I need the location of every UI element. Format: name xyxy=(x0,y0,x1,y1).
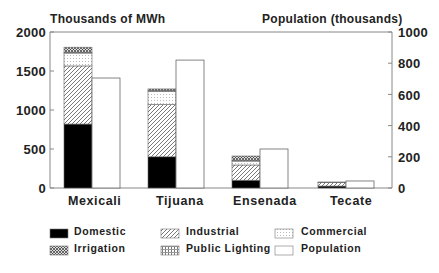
bar-group-tijuana xyxy=(148,60,204,188)
legend-label-population: Population xyxy=(301,242,361,254)
bar-segment-industrial xyxy=(64,66,92,124)
left-tick-label: 1500 xyxy=(16,64,46,79)
bar-segment-domestic xyxy=(148,157,176,188)
bar-segment-industrial xyxy=(318,183,346,187)
bar-population xyxy=(346,181,374,188)
right-axis-title: Population (thousands) xyxy=(262,12,403,26)
bar-segment-industrial xyxy=(148,105,176,157)
bar-population xyxy=(92,78,120,188)
bar-segment-domestic xyxy=(232,180,260,188)
legend-swatch-domestic xyxy=(50,229,68,238)
bar-segment-commercial xyxy=(64,53,92,66)
left-tick-label: 500 xyxy=(23,142,46,157)
right-tick-label: 400 xyxy=(398,119,421,134)
legend-label-irrigation: Irrigation xyxy=(74,242,126,254)
left-axis-title: Thousands of MWh xyxy=(50,12,165,26)
bar-segment-industrial xyxy=(232,165,260,180)
legend-swatch-industrial xyxy=(161,229,179,238)
bar-group-ensenada xyxy=(232,149,288,188)
right-tick-label: 1000 xyxy=(398,25,428,40)
bar-segment-irrigation xyxy=(64,47,92,52)
bar-segment-irrigation xyxy=(232,156,260,160)
bar-population xyxy=(260,149,288,188)
bar-group-tecate xyxy=(318,181,374,188)
legend-swatch-public-lighting xyxy=(161,246,179,255)
bar-segment-domestic xyxy=(64,124,92,188)
legend-label-public-lighting: Public Lighting xyxy=(186,242,271,254)
legend-swatch-commercial xyxy=(275,229,293,238)
bar-population xyxy=(176,60,204,188)
category-label-tecate: Tecate xyxy=(330,194,372,208)
bar-segment-irrigation xyxy=(148,89,176,91)
legend-swatch-population xyxy=(275,246,293,255)
plot-area xyxy=(50,32,392,188)
right-tick-label: 600 xyxy=(398,88,421,103)
bar-segment-commercial xyxy=(232,161,260,165)
bar-segment-commercial xyxy=(148,91,176,104)
legend-swatch-irrigation xyxy=(50,246,68,255)
left-tick-label: 1000 xyxy=(16,103,46,118)
category-label-mexicali: Mexicali xyxy=(68,194,121,208)
bar-group-mexicali xyxy=(64,47,120,188)
legend-label-domestic: Domestic xyxy=(74,225,126,237)
right-tick-label: 0 xyxy=(398,181,406,196)
right-tick-label: 800 xyxy=(398,56,421,71)
right-tick-label: 200 xyxy=(398,150,421,165)
legend-label-industrial: Industrial xyxy=(186,225,239,237)
category-label-tijuana: Tijuana xyxy=(156,194,204,208)
legend-label-commercial: Commercial xyxy=(301,225,367,237)
left-tick-label: 0 xyxy=(38,181,46,196)
left-tick-label: 2000 xyxy=(16,25,46,40)
category-label-ensenada: Ensenada xyxy=(233,194,297,208)
